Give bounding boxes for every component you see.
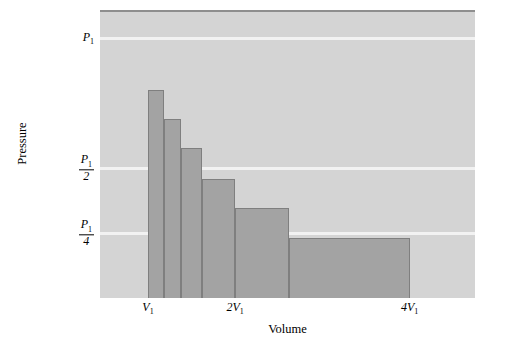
gridline-1 [100,37,475,40]
bar-step-1 [148,90,164,298]
pressure-volume-chart: P1P12P14 V12V14V1 Volume Pressure [0,0,507,349]
bar-step-2 [164,119,181,298]
y-tick-label: P14 [79,218,94,247]
bar-step-4 [202,179,235,298]
bar-step-3 [181,148,202,298]
x-tick-label: V1 [142,300,153,316]
y-tick-label: P12 [79,153,94,182]
y-axis-title: Pressure [15,104,30,184]
x-tick-label: 2V1 [227,300,244,316]
bar-step-6 [289,238,409,298]
x-axis-ticks: V12V14V1 [100,300,475,320]
y-axis-ticks: P1P12P14 [36,12,94,298]
x-axis-title: Volume [100,322,475,337]
plot-area [100,12,475,298]
x-tick-label: 4V1 [401,300,418,316]
bar-step-5 [235,208,289,298]
y-tick-label: P1 [83,30,94,46]
